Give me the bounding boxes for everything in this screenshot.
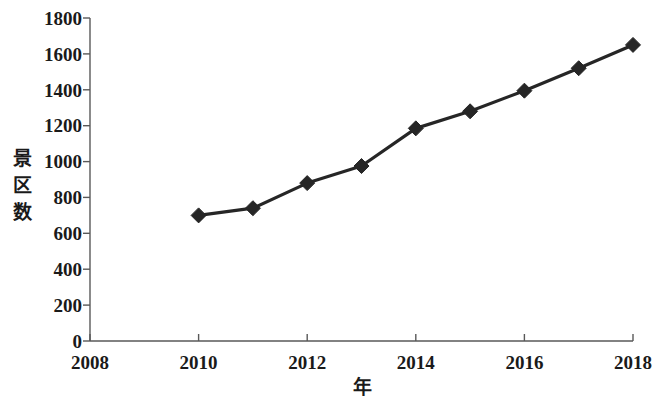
y-tick-label: 200 [54,295,83,316]
x-tick-label: 2016 [505,352,543,373]
x-tick-label: 2018 [614,352,652,373]
y-tick-label: 1600 [44,44,82,65]
y-tick-label: 1800 [44,8,82,29]
y-axis-title: 景 区 数 [13,148,33,223]
line-chart: 1800 1600 1400 1200 1000 800 600 400 200… [0,0,656,401]
data-point-marker [463,104,478,119]
y-axis-tick-labels: 1800 1600 1400 1200 1000 800 600 400 200… [44,8,82,352]
data-point-marker [300,176,315,191]
chart-container: 1800 1600 1400 1200 1000 800 600 400 200… [0,0,656,401]
x-axis-tick-labels: 2008 2010 2012 2014 2016 2018 [71,352,652,373]
data-point-marker [245,201,260,216]
y-axis [83,18,90,341]
data-point-marker [571,61,586,76]
x-tick-label: 2012 [288,352,326,373]
y-tick-label: 400 [54,259,83,280]
data-series [191,37,640,222]
y-tick-label: 0 [73,331,83,352]
y-axis-title-char: 景 [13,148,32,169]
y-tick-label: 1400 [44,80,82,101]
y-tick-label: 1000 [44,151,82,172]
x-axis-title-text: 年 [353,376,372,398]
x-axis-title: 年 [353,376,372,398]
data-point-marker [191,208,206,223]
y-axis-title-char: 数 [13,201,33,223]
y-tick-label: 600 [54,223,83,244]
data-point-marker [626,37,641,52]
x-tick-label: 2008 [71,352,109,373]
x-axis [90,334,633,341]
y-tick-label: 1200 [44,115,82,136]
x-tick-label: 2014 [397,352,436,373]
data-point-marker [517,83,532,98]
x-tick-label: 2010 [180,352,218,373]
series-markers [191,37,640,222]
y-tick-label: 800 [54,187,83,208]
y-axis-title-char: 区 [13,175,32,196]
